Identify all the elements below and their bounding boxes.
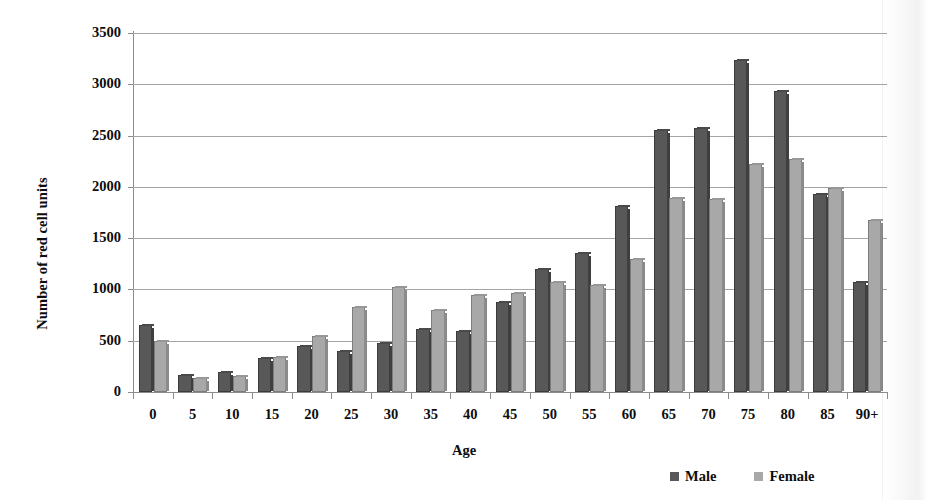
bar-male-75[interactable] (734, 60, 748, 392)
bar-male-90+[interactable] (853, 282, 867, 392)
bar-male-20[interactable] (297, 346, 311, 392)
y-tick-label-2500: 2500 (61, 128, 121, 143)
legend-label-female: Female (769, 468, 814, 485)
x-tick-mark-90+ (847, 392, 848, 399)
x-tick-mark-45 (490, 392, 491, 399)
bar-group-20 (292, 33, 332, 392)
x-tick-mark-70 (689, 392, 690, 399)
plot-area (133, 33, 887, 392)
x-tick-mark-50 (530, 392, 531, 399)
x-tick-mark-60 (609, 392, 610, 399)
bar-male-5[interactable] (178, 375, 192, 392)
bar-male-40[interactable] (456, 331, 470, 392)
bar-male-70[interactable] (694, 128, 708, 392)
bar-female-90+[interactable] (868, 220, 882, 392)
bar-male-0[interactable] (139, 325, 153, 392)
bar-female-40[interactable] (471, 295, 485, 392)
bar-female-85[interactable] (828, 188, 842, 392)
x-tick-mark-end (887, 392, 888, 399)
bar-male-80[interactable] (774, 91, 788, 392)
bar-female-20[interactable] (312, 336, 326, 392)
bar-female-5[interactable] (193, 378, 207, 392)
x-tick-mark-0 (133, 392, 134, 399)
bar-male-15[interactable] (258, 358, 272, 392)
x-tick-mark-80 (768, 392, 769, 399)
x-tick-mark-5 (173, 392, 174, 399)
bar-group-40 (450, 33, 490, 392)
bar-group-45 (490, 33, 530, 392)
bar-female-60[interactable] (630, 259, 644, 392)
bar-male-85[interactable] (813, 194, 827, 392)
x-tick-mark-20 (292, 392, 293, 399)
bar-female-35[interactable] (431, 310, 445, 392)
y-tick-label-1000: 1000 (61, 281, 121, 296)
x-tick-mark-65 (649, 392, 650, 399)
bar-group-50 (530, 33, 570, 392)
bar-male-10[interactable] (218, 372, 232, 392)
bar-group-0 (133, 33, 173, 392)
legend-label-male: Male (685, 468, 716, 485)
x-axis-title: Age (0, 442, 928, 459)
bar-female-50[interactable] (550, 282, 564, 392)
x-tick-mark-35 (411, 392, 412, 399)
bar-male-50[interactable] (535, 269, 549, 392)
legend-entry-female[interactable]: Female (754, 468, 814, 485)
bar-male-55[interactable] (575, 253, 589, 392)
x-tick-mark-85 (808, 392, 809, 399)
x-tick-mark-75 (728, 392, 729, 399)
bar-female-15[interactable] (273, 357, 287, 392)
bar-male-35[interactable] (416, 329, 430, 392)
bar-male-45[interactable] (496, 302, 510, 392)
bar-group-25 (331, 33, 371, 392)
bar-group-75 (728, 33, 768, 392)
bar-group-55 (570, 33, 610, 392)
y-tick-label-2000: 2000 (61, 179, 121, 194)
bar-chart-figure: Number of red cell units 350030002500200… (0, 0, 928, 500)
bar-male-60[interactable] (615, 206, 629, 392)
bar-female-10[interactable] (233, 376, 247, 392)
y-tick-label-0: 0 (61, 384, 121, 399)
bar-male-65[interactable] (654, 130, 668, 392)
scan-edge-line (882, 0, 883, 500)
bar-group-85 (808, 33, 848, 392)
bar-female-0[interactable] (154, 341, 168, 392)
y-tick-label-1500: 1500 (61, 230, 121, 245)
x-tick-mark-40 (450, 392, 451, 399)
legend-entry-male[interactable]: Male (670, 468, 716, 485)
bar-female-75[interactable] (749, 164, 763, 392)
y-axis-title: Number of red cell units (34, 134, 51, 374)
scan-edge-shadow (882, 0, 928, 500)
bar-female-80[interactable] (789, 159, 803, 392)
bar-female-30[interactable] (392, 287, 406, 392)
legend-swatch-icon-female (754, 472, 763, 481)
x-tick-mark-15 (252, 392, 253, 399)
y-tick-label-500: 500 (61, 333, 121, 348)
bar-group-15 (252, 33, 292, 392)
bar-female-45[interactable] (511, 293, 525, 392)
y-tick-label-3000: 3000 (61, 76, 121, 91)
x-axis-tick-group (133, 392, 887, 401)
bar-female-70[interactable] (709, 199, 723, 392)
y-tick-label-3500: 3500 (61, 25, 121, 40)
x-tick-label-90+: 90+ (840, 406, 894, 423)
bar-group-65 (649, 33, 689, 392)
bar-group-60 (609, 33, 649, 392)
bar-group-10 (212, 33, 252, 392)
bar-group-35 (411, 33, 451, 392)
bar-male-25[interactable] (337, 351, 351, 392)
bar-group-80 (768, 33, 808, 392)
x-tick-mark-30 (371, 392, 372, 399)
bar-group-70 (689, 33, 729, 392)
x-tick-mark-55 (570, 392, 571, 399)
x-tick-mark-10 (212, 392, 213, 399)
bar-group-30 (371, 33, 411, 392)
bar-female-65[interactable] (669, 198, 683, 392)
bar-male-30[interactable] (377, 343, 391, 392)
bar-group-5 (173, 33, 213, 392)
x-tick-mark-25 (331, 392, 332, 399)
legend-swatch-icon-male (670, 472, 679, 481)
bar-female-25[interactable] (352, 307, 366, 392)
bar-female-55[interactable] (590, 285, 604, 392)
chart-legend: MaleFemale (670, 466, 815, 486)
